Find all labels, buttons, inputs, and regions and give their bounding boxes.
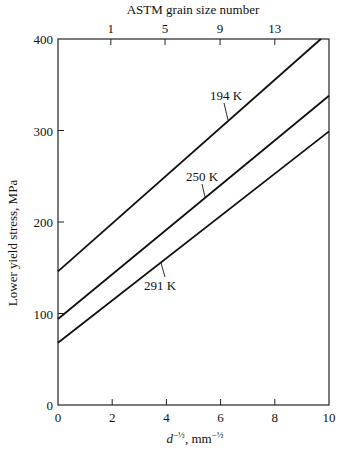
- y-tick-label: 100: [34, 307, 54, 322]
- x-tick-label: 6: [217, 410, 224, 425]
- y-tick-label: 400: [34, 32, 54, 47]
- y-tick-label: 300: [34, 124, 54, 139]
- top-tick-label: 13: [268, 21, 281, 36]
- x-tick-label: 10: [323, 410, 336, 425]
- x-axis-label: d−½, mm−½: [167, 430, 224, 446]
- y-tick-label: 0: [47, 398, 54, 413]
- label-leader-line: [224, 103, 228, 120]
- top-axis-ticks: 15913: [108, 21, 282, 45]
- top-tick-label: 5: [162, 21, 169, 36]
- series-line-194k: [58, 39, 321, 271]
- data-lines: [58, 39, 329, 343]
- top-tick-label: 9: [217, 21, 224, 36]
- chart-svg: ASTM grain size number 15913 0246810 010…: [0, 0, 347, 455]
- series-label: 194 K: [210, 88, 243, 103]
- series-line-250k: [58, 96, 329, 319]
- x-tick-label: 8: [272, 410, 279, 425]
- series-line-291k: [58, 131, 329, 342]
- series-label: 291 K: [144, 278, 177, 293]
- top-tick-label: 1: [108, 21, 115, 36]
- series-label: 250 K: [186, 169, 219, 184]
- x-tick-label: 0: [55, 410, 62, 425]
- x-tick-label: 4: [163, 410, 170, 425]
- label-leader-line: [161, 263, 165, 277]
- y-axis-label: Lower yield stress, MPa: [5, 180, 20, 307]
- y-tick-label: 200: [34, 215, 54, 230]
- line-labels: 194 K250 K291 K: [144, 88, 243, 293]
- label-leader-line: [202, 184, 205, 197]
- x-axis-ticks: 0246810: [55, 399, 336, 425]
- top-axis-label: ASTM grain size number: [127, 2, 260, 17]
- plot-border: [58, 39, 329, 405]
- x-tick-label: 2: [109, 410, 116, 425]
- plot-frame: [58, 39, 329, 405]
- y-axis-ticks: 0100200300400: [34, 32, 65, 413]
